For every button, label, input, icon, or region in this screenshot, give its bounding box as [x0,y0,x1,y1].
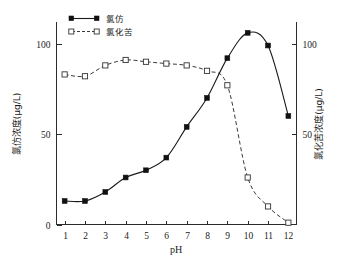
legend-marker-filled-square [69,16,74,21]
series-markers-chloroform [62,30,291,203]
data-point-chloropicrin [103,63,108,68]
x-axis-tick-labels: 123456789101112 [63,231,293,241]
x-tick-label: 12 [284,231,294,241]
data-point-chloroform [225,56,230,61]
left-y-tick-label: 50 [41,130,51,140]
data-point-chloropicrin [265,204,270,209]
x-tick-label: 4 [124,231,129,241]
left-axis-title: 氯仿浓度(μg/L) [11,93,22,156]
x-axis-title: pH [170,244,182,255]
data-point-chloropicrin [245,175,250,180]
series-line-chloroform [65,32,289,202]
chart-figure: 123456789101112 050100 50100 pH 氯仿浓度(μg/… [0,0,337,265]
x-tick-label: 1 [63,231,68,241]
x-tick-label: 6 [164,231,169,241]
data-point-chloroform [103,190,108,195]
x-tick-label: 11 [264,231,273,241]
data-point-chloropicrin [123,57,128,62]
legend-marker-open-square [94,29,99,34]
chart-legend: 氯仿 氯化苦 [69,14,133,37]
right-y-tick-label: 50 [303,130,313,140]
series-markers-chloropicrin [62,57,291,225]
data-point-chloropicrin [82,74,87,79]
axes-frame [57,22,297,225]
data-point-chloroform [83,199,88,204]
data-point-chloroform [164,155,169,160]
data-point-chloroform [123,175,128,180]
left-y-tick-label: 0 [46,221,51,231]
legend-entry-chloroform: 氯仿 [69,14,124,24]
data-point-chloroform [286,114,291,119]
x-tick-label: 10 [244,231,254,241]
legend-label-chloroform: 氯仿 [106,14,124,24]
x-axis-ticks [66,221,289,225]
x-tick-label: 7 [185,231,190,241]
data-point-chloropicrin [225,83,230,88]
x-tick-label: 3 [103,231,108,241]
data-point-chloroform [62,199,67,204]
data-point-chloropicrin [143,59,148,64]
data-point-chloroform [245,30,250,35]
x-tick-label: 5 [144,231,149,241]
data-point-chloropicrin [62,72,67,77]
legend-marker-filled-square [94,16,99,21]
left-y-tick-label: 100 [36,40,51,50]
data-point-chloroform [144,168,149,173]
right-axis-title: 氯化苦浓度(μg/L) [313,88,324,160]
x-tick-label: 8 [205,231,210,241]
right-axis-ticks [292,45,297,135]
data-point-chloroform [266,43,271,48]
data-point-chloroform [184,124,189,129]
x-tick-label: 9 [225,231,230,241]
legend-entry-chloropicrin: 氯化苦 [69,27,133,37]
data-point-chloroform [205,96,210,101]
left-axis-tick-labels: 050100 [36,40,51,231]
series-line-chloropicrin [65,60,289,223]
x-tick-label: 2 [83,231,88,241]
left-axis-ticks [57,45,62,226]
data-point-chloropicrin [204,68,209,73]
right-y-tick-label: 100 [303,40,318,50]
legend-label-chloropicrin: 氯化苦 [106,27,133,37]
data-point-chloropicrin [286,220,291,225]
data-point-chloropicrin [164,61,169,66]
legend-marker-open-square [69,29,74,34]
data-point-chloropicrin [184,63,189,68]
dual-axis-line-chart: 123456789101112 050100 50100 pH 氯仿浓度(μg/… [0,0,337,265]
